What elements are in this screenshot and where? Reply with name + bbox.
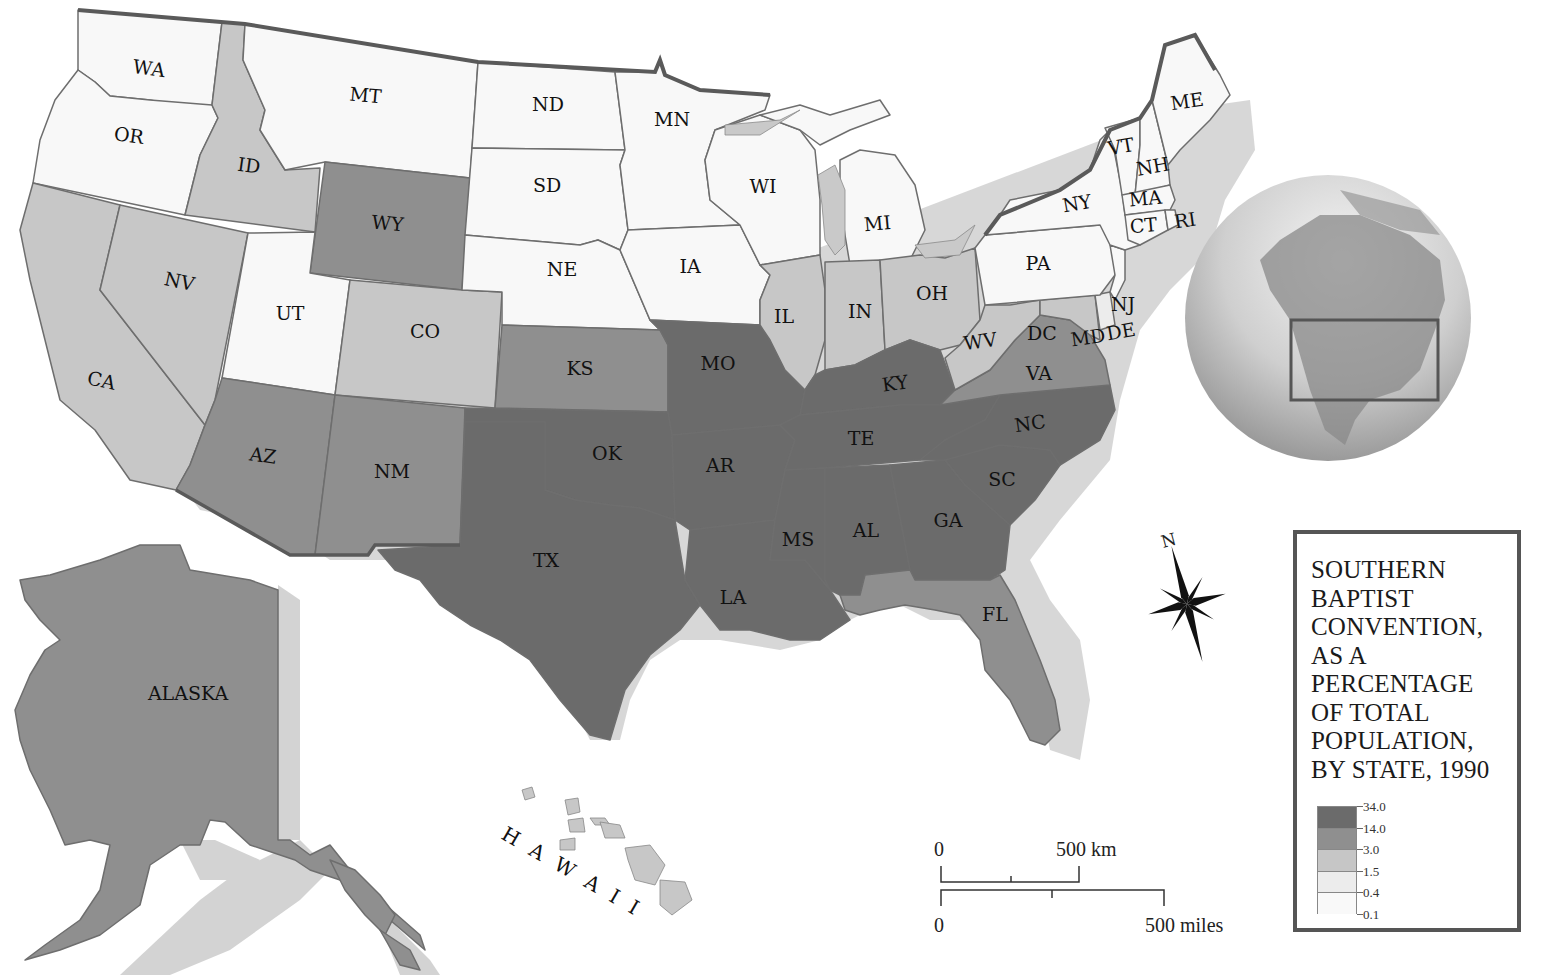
state-mi: [840, 150, 925, 265]
alaska-label: ALASKA: [147, 682, 229, 704]
svg-text:KY: KY: [881, 370, 910, 395]
legend-title-line: AS A: [1311, 642, 1516, 671]
scale-km-zero: 0: [934, 838, 944, 861]
svg-text:DC: DC: [1027, 322, 1057, 344]
svg-text:OK: OK: [592, 442, 623, 464]
svg-text:NE: NE: [547, 258, 578, 280]
legend-swatch-class-5: [1317, 892, 1357, 914]
legend-title-line: BY STATE, 1990: [1311, 756, 1516, 785]
legend-title: SOUTHERN BAPTIST CONVENTION, AS A PERCEN…: [1311, 556, 1516, 784]
svg-text:NM: NM: [374, 460, 410, 482]
legend-title-line: SOUTHERN: [1311, 556, 1516, 585]
globe-locator-icon: [1185, 175, 1471, 461]
svg-text:UT: UT: [276, 302, 305, 324]
svg-text:RI: RI: [1173, 208, 1198, 233]
legend-title-line: POPULATION,: [1311, 727, 1516, 756]
svg-text:OR: OR: [113, 122, 146, 148]
legend-break: 34.0: [1363, 800, 1386, 813]
legend-swatch-class-1: [1317, 806, 1357, 828]
svg-text:TX: TX: [533, 549, 560, 571]
svg-text:PA: PA: [1026, 252, 1051, 274]
svg-text:CT: CT: [1129, 213, 1158, 237]
scale-bar: [941, 866, 1164, 906]
svg-text:MT: MT: [349, 83, 383, 108]
legend: SOUTHERN BAPTIST CONVENTION, AS A PERCEN…: [1293, 530, 1521, 932]
svg-text:FL: FL: [982, 603, 1008, 625]
svg-text:MO: MO: [700, 352, 735, 374]
legend-scale: 34.0 14.0 3.0 1.5 0.4 0.1: [1317, 806, 1357, 914]
hawaii-inset: H A W A I I: [498, 787, 693, 922]
svg-text:ME: ME: [1169, 88, 1205, 114]
svg-text:NC: NC: [1013, 410, 1047, 436]
svg-text:IN: IN: [848, 300, 872, 322]
svg-text:AR: AR: [705, 454, 735, 476]
svg-text:ID: ID: [236, 153, 262, 178]
legend-title-line: BAPTIST: [1311, 585, 1516, 614]
svg-text:NJ: NJ: [1111, 293, 1135, 315]
scale-km-label: 500 km: [1056, 838, 1117, 861]
svg-text:TE: TE: [848, 427, 875, 449]
scale-mi-label: 500 miles: [1145, 914, 1223, 937]
legend-break: 0.1: [1363, 908, 1379, 921]
legend-title-line: OF TOTAL: [1311, 699, 1516, 728]
svg-text:WA: WA: [131, 55, 166, 81]
svg-text:MN: MN: [654, 108, 690, 130]
legend-swatch-class-4: [1317, 871, 1357, 893]
svg-text:WI: WI: [749, 175, 776, 197]
scale-mi-zero: 0: [934, 914, 944, 937]
svg-text:SD: SD: [533, 174, 561, 196]
svg-text:AZ: AZ: [247, 442, 278, 468]
svg-text:IA: IA: [679, 255, 701, 277]
svg-text:WY: WY: [371, 211, 405, 236]
legend-swatch-class-3: [1317, 849, 1357, 871]
legend-swatch-class-2: [1317, 828, 1357, 850]
svg-text:MI: MI: [863, 211, 892, 235]
svg-text:KS: KS: [566, 357, 593, 379]
legend-break: 1.5: [1363, 865, 1379, 878]
legend-break: 3.0: [1363, 843, 1379, 856]
legend-title-line: CONVENTION,: [1311, 613, 1516, 642]
svg-text:SC: SC: [988, 468, 1016, 490]
svg-text:CO: CO: [410, 320, 440, 342]
svg-text:AL: AL: [852, 519, 880, 541]
legend-title-line: PERCENTAGE: [1311, 670, 1516, 699]
svg-text:MA: MA: [1128, 186, 1163, 211]
svg-text:LA: LA: [720, 586, 747, 608]
state-sd: [465, 148, 628, 250]
compass-north-label: N: [1159, 529, 1179, 552]
svg-text:OH: OH: [916, 282, 948, 304]
legend-break: 0.4: [1363, 886, 1379, 899]
state-co: [335, 280, 502, 408]
svg-text:ND: ND: [532, 93, 564, 115]
svg-text:VA: VA: [1025, 362, 1052, 384]
legend-break: 14.0: [1363, 822, 1386, 835]
svg-text:IL: IL: [774, 305, 795, 327]
svg-text:GA: GA: [934, 509, 963, 531]
compass-rose-icon: [1133, 536, 1241, 673]
svg-text:WV: WV: [962, 328, 998, 354]
svg-text:MS: MS: [782, 528, 814, 550]
